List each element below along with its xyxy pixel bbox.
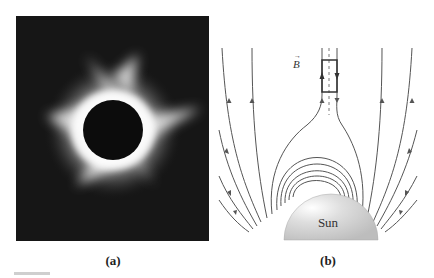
caption-a: (a) [93,253,133,269]
arrow-down-icon [335,73,340,80]
footer-mark [14,272,50,275]
magnetic-field-diagram: Sun B → [217,0,434,278]
eclipse-photo [16,16,209,241]
amperian-loop [322,60,337,92]
vector-arrow-icon: → [294,52,301,60]
caption-b: (b) [308,253,348,269]
sun-label: Sun [318,215,339,230]
moon-disk [83,100,143,160]
corona-image [16,16,209,241]
arrow-up-icon [320,72,325,79]
